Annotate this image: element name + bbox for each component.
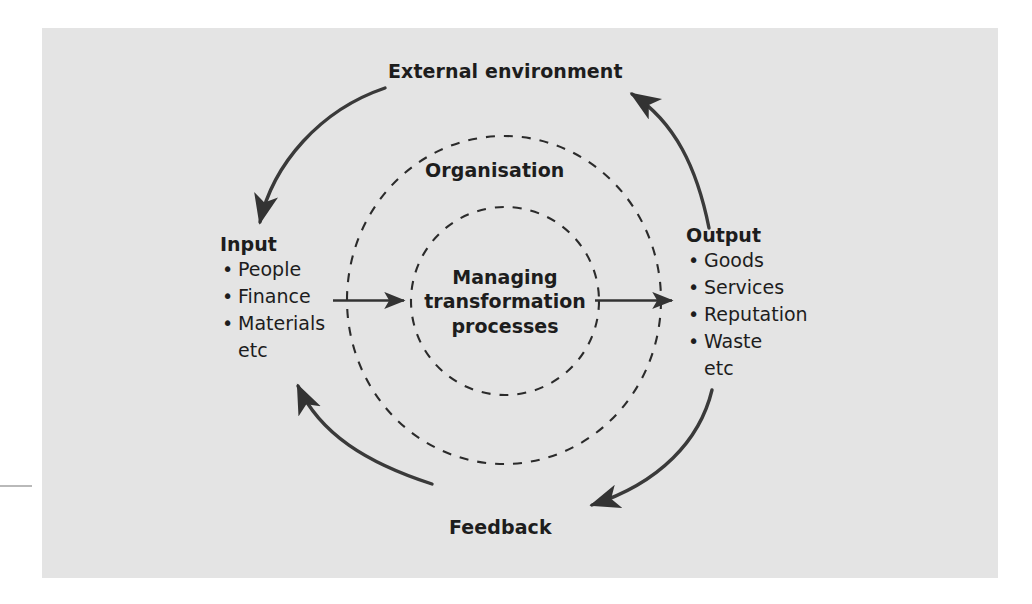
input-item-label: Materials xyxy=(238,312,325,334)
bullet-icon: • xyxy=(222,310,233,337)
list-item: • Waste xyxy=(686,328,808,355)
input-title: Input xyxy=(220,235,325,254)
bullet-icon: • xyxy=(222,283,233,310)
output-list: • Goods • Services • Reputation • Waste xyxy=(686,247,808,355)
input-block: Input • People • Finance • Materials etc xyxy=(220,235,325,364)
input-list: • People • Finance • Materials xyxy=(220,256,325,337)
list-item: • Reputation xyxy=(686,301,808,328)
label-feedback: Feedback xyxy=(449,518,552,537)
bullet-icon: • xyxy=(688,274,699,301)
list-item: • Finance xyxy=(220,283,325,310)
label-managing-transformation-processes: Managing transformation processes xyxy=(412,265,598,338)
arc-arrow-bottom-right xyxy=(592,390,712,505)
list-item: • People xyxy=(220,256,325,283)
output-block: Output • Goods • Services • Reputation •… xyxy=(686,226,808,382)
arc-arrow-top-right xyxy=(632,94,709,228)
output-etc: etc xyxy=(686,355,808,382)
bullet-icon: • xyxy=(688,247,699,274)
centre-line-1: Managing xyxy=(452,266,557,288)
centre-line-2: transformation xyxy=(424,290,586,312)
list-item: • Services xyxy=(686,274,808,301)
arc-arrow-top-left xyxy=(260,88,385,222)
arc-arrow-bottom-left xyxy=(298,386,432,484)
input-item-label: Finance xyxy=(238,285,311,307)
label-organisation: Organisation xyxy=(425,161,565,180)
input-etc: etc xyxy=(220,337,325,364)
output-item-label: Goods xyxy=(704,249,764,271)
output-item-label: Services xyxy=(704,276,784,298)
bullet-icon: • xyxy=(688,301,699,328)
output-item-label: Reputation xyxy=(704,303,808,325)
list-item: • Goods xyxy=(686,247,808,274)
bullet-icon: • xyxy=(688,328,699,355)
figure-page: External environment Organisation Managi… xyxy=(0,0,1032,604)
bullet-icon: • xyxy=(222,256,233,283)
list-item: • Materials xyxy=(220,310,325,337)
centre-line-3: processes xyxy=(452,315,559,337)
output-item-label: Waste xyxy=(704,330,762,352)
output-title: Output xyxy=(686,226,808,245)
input-item-label: People xyxy=(238,258,301,280)
label-external-environment: External environment xyxy=(388,62,623,81)
